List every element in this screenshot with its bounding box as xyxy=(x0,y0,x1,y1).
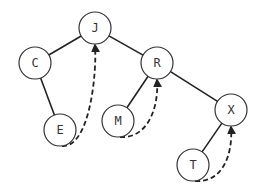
node-label: E xyxy=(56,123,63,137)
node-X: X xyxy=(215,94,247,126)
node-J: J xyxy=(79,12,111,44)
node-T: T xyxy=(177,149,209,181)
node-C: C xyxy=(19,47,51,79)
node-R: R xyxy=(141,47,173,79)
node-label: R xyxy=(153,56,161,70)
edge-R-M xyxy=(127,76,148,107)
node-E: E xyxy=(44,114,76,146)
node-label: C xyxy=(31,56,38,70)
node-label: T xyxy=(189,158,196,172)
threaded-tree-diagram: JCREMXT xyxy=(0,0,258,192)
node-label: X xyxy=(227,103,235,117)
node-label: J xyxy=(91,21,98,35)
node-label: M xyxy=(114,114,121,128)
edge-X-T xyxy=(202,123,222,152)
node-M: M xyxy=(102,105,134,137)
edge-C-E xyxy=(41,78,55,115)
edge-R-X xyxy=(171,72,218,102)
edge-J-C xyxy=(49,36,81,55)
edge-J-R xyxy=(109,36,143,55)
